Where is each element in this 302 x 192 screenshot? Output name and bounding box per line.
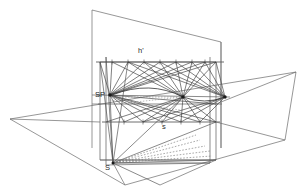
point-marker-s-ground [112,162,115,165]
point-marker-right [223,95,226,98]
perspective-diagram-canvas: h' SP s S [0,0,302,192]
label-station-point-ground: S [105,163,110,172]
label-horizon: h' [138,46,144,55]
label-station-point-picture: SP [95,90,105,99]
point-marker-center [181,95,184,98]
label-center-point: s [162,122,166,131]
perspective-diagram-svg: h' SP s S [0,0,302,192]
point-marker-sp [108,93,111,96]
